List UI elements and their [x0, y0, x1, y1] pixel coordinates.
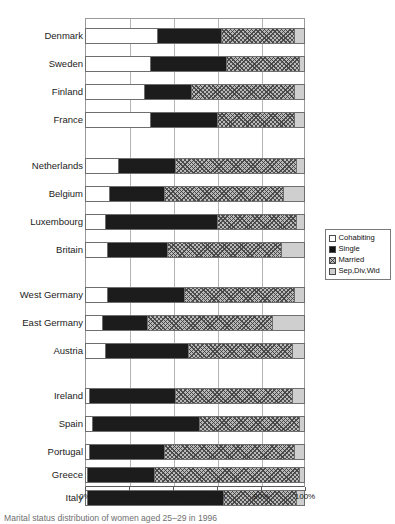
- bar-segment-married: [147, 316, 273, 330]
- bar-segment-sep-div-wid: [297, 159, 304, 173]
- legend-label: Cohabiting: [339, 233, 375, 243]
- chart-root: DenmarkSwedenFinlandFranceNetherlandsBel…: [0, 0, 395, 524]
- bar-segment-cohabiting: [86, 344, 106, 358]
- stacked-bar[interactable]: [85, 28, 305, 44]
- x-axis-label-20pct: 20%: [109, 492, 149, 501]
- bar-segment-sep-div-wid: [300, 417, 304, 431]
- legend-label: Sep,Div,Wid: [339, 266, 380, 276]
- legend-item-single[interactable]: Single: [329, 244, 387, 254]
- bar-segment-married: [226, 57, 300, 71]
- bar-segment-cohabiting: [86, 187, 110, 201]
- bar-segment-single: [151, 57, 225, 71]
- y-axis-label-spain: Spain: [0, 416, 83, 432]
- bar-segment-single: [106, 344, 189, 358]
- bar-segment-cohabiting: [86, 288, 108, 302]
- x-tick-mark: [261, 487, 262, 491]
- x-axis-label-80pct: 80%: [241, 492, 281, 501]
- bar-row: [85, 315, 305, 331]
- stacked-bar[interactable]: [85, 287, 305, 303]
- legend-item-cohabiting[interactable]: Cohabiting: [329, 233, 387, 243]
- bar-row: [85, 56, 305, 72]
- bar-row: [85, 416, 305, 432]
- y-axis-label-sweden: Sweden: [0, 56, 83, 72]
- bar-segment-cohabiting: [86, 57, 151, 71]
- bar-segment-sep-div-wid: [297, 215, 304, 229]
- bar-segment-sep-div-wid: [300, 468, 304, 482]
- stacked-bar[interactable]: [85, 467, 305, 483]
- bar-segment-cohabiting: [86, 243, 108, 257]
- stacked-bar[interactable]: [85, 112, 305, 128]
- bar-segment-cohabiting: [86, 85, 145, 99]
- bar-segment-sep-div-wid: [295, 288, 304, 302]
- stacked-bar[interactable]: [85, 186, 305, 202]
- legend-label: Single: [339, 244, 360, 254]
- bar-segment-single: [108, 243, 167, 257]
- bar-segment-sep-div-wid: [295, 85, 304, 99]
- x-axis-label-60pct: 60%: [197, 492, 237, 501]
- bar-segment-single: [90, 445, 164, 459]
- x-tick-mark: [217, 487, 218, 491]
- bar-segment-single: [90, 389, 175, 403]
- stacked-bar[interactable]: [85, 242, 305, 258]
- stacked-bar[interactable]: [85, 315, 305, 331]
- bar-segment-sep-div-wid: [282, 243, 304, 257]
- bar-segment-sep-div-wid: [295, 113, 304, 127]
- x-axis-label-40pct: 40%: [153, 492, 193, 501]
- bar-segment-sep-div-wid: [293, 389, 304, 403]
- x-tick-mark: [129, 487, 130, 491]
- stacked-bar[interactable]: [85, 158, 305, 174]
- y-axis-label-netherlands: Netherlands: [0, 158, 83, 174]
- legend-item-married[interactable]: Married: [329, 255, 387, 265]
- y-axis-label-luxembourg: Luxembourg: [0, 214, 83, 230]
- y-axis-label-france: France: [0, 112, 83, 128]
- bar-row: [85, 343, 305, 359]
- bar-segment-sep-div-wid: [295, 445, 304, 459]
- legend-swatch-cohabiting-icon: [329, 235, 336, 242]
- x-tick-mark: [305, 487, 306, 491]
- x-tick-mark: [85, 487, 86, 491]
- bar-segment-cohabiting: [86, 215, 106, 229]
- y-axis-label-austria: Austria: [0, 343, 83, 359]
- x-axis-label-100pct: 100%: [285, 492, 325, 501]
- bar-segment-married: [217, 215, 298, 229]
- bar-segment-married: [221, 29, 295, 43]
- bar-row: [85, 28, 305, 44]
- bar-segment-cohabiting: [86, 159, 119, 173]
- stacked-bar[interactable]: [85, 416, 305, 432]
- stacked-bar[interactable]: [85, 56, 305, 72]
- bar-segment-single: [93, 417, 200, 431]
- bar-row: [85, 388, 305, 404]
- figure-caption: Marital status distribution of women age…: [4, 513, 392, 523]
- bar-segment-single: [88, 468, 153, 482]
- y-axis-label-east-germany: East Germany: [0, 315, 83, 331]
- y-axis-label-west-germany: West Germany: [0, 287, 83, 303]
- y-axis-label-britain: Britain: [0, 242, 83, 258]
- y-axis-label-greece: Greece: [0, 467, 83, 483]
- bar-row: [85, 467, 305, 483]
- bar-segment-married: [175, 159, 297, 173]
- bar-segment-single: [103, 316, 147, 330]
- stacked-bar[interactable]: [85, 388, 305, 404]
- bar-segment-sep-div-wid: [293, 344, 304, 358]
- bar-segment-sep-div-wid: [273, 316, 304, 330]
- bar-segment-single: [110, 187, 165, 201]
- bar-segment-married: [175, 389, 293, 403]
- bar-rows: [85, 18, 305, 487]
- chart-legend: CohabitingSingleMarriedSep,Div,Wid: [325, 229, 391, 280]
- bar-segment-single: [158, 29, 221, 43]
- stacked-bar[interactable]: [85, 84, 305, 100]
- bar-row: [85, 158, 305, 174]
- bar-segment-single: [119, 159, 176, 173]
- bar-segment-sep-div-wid: [284, 187, 304, 201]
- stacked-bar[interactable]: [85, 214, 305, 230]
- stacked-bar[interactable]: [85, 343, 305, 359]
- stacked-bar[interactable]: [85, 444, 305, 460]
- legend-item-sep[interactable]: Sep,Div,Wid: [329, 266, 387, 276]
- bar-segment-single: [145, 85, 191, 99]
- y-axis-label-portugal: Portugal: [0, 444, 83, 460]
- bar-segment-married: [184, 288, 295, 302]
- bar-segment-sep-div-wid: [295, 29, 304, 43]
- bar-segment-cohabiting: [86, 113, 151, 127]
- y-axis-label-belgium: Belgium: [0, 186, 83, 202]
- x-tick-mark: [173, 487, 174, 491]
